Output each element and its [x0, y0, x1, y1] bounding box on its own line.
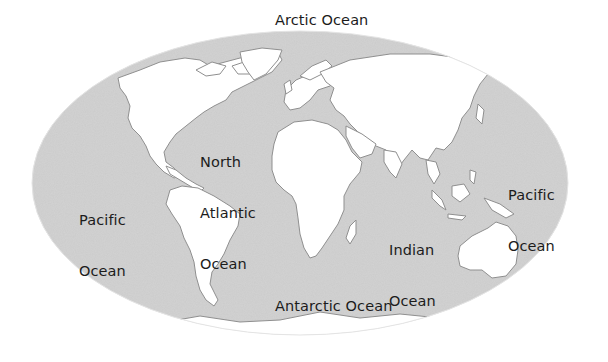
pacific-west-line-1: Pacific — [79, 212, 126, 229]
indian-line-1: Indian — [389, 242, 436, 259]
indian-line-2: Ocean — [389, 293, 436, 310]
north-atlantic-line-3: Ocean — [200, 256, 256, 273]
pacific-east-line-2: Ocean — [508, 238, 555, 255]
pacific-ocean-west-label: Pacific Ocean — [79, 178, 126, 297]
north-atlantic-ocean-label: North Atlantic Ocean — [200, 120, 256, 290]
antarctic-ocean-label: Antarctic Ocean — [275, 298, 392, 315]
pacific-ocean-east-label: Pacific Ocean — [508, 153, 555, 272]
indian-ocean-label: Indian Ocean — [389, 208, 436, 327]
north-atlantic-line-2: Atlantic — [200, 205, 256, 222]
new-zealand — [518, 270, 534, 294]
pacific-east-line-1: Pacific — [508, 187, 555, 204]
arctic-ocean-label: Arctic Ocean — [275, 12, 368, 29]
north-atlantic-line-1: North — [200, 154, 256, 171]
pacific-west-line-2: Ocean — [79, 263, 126, 280]
